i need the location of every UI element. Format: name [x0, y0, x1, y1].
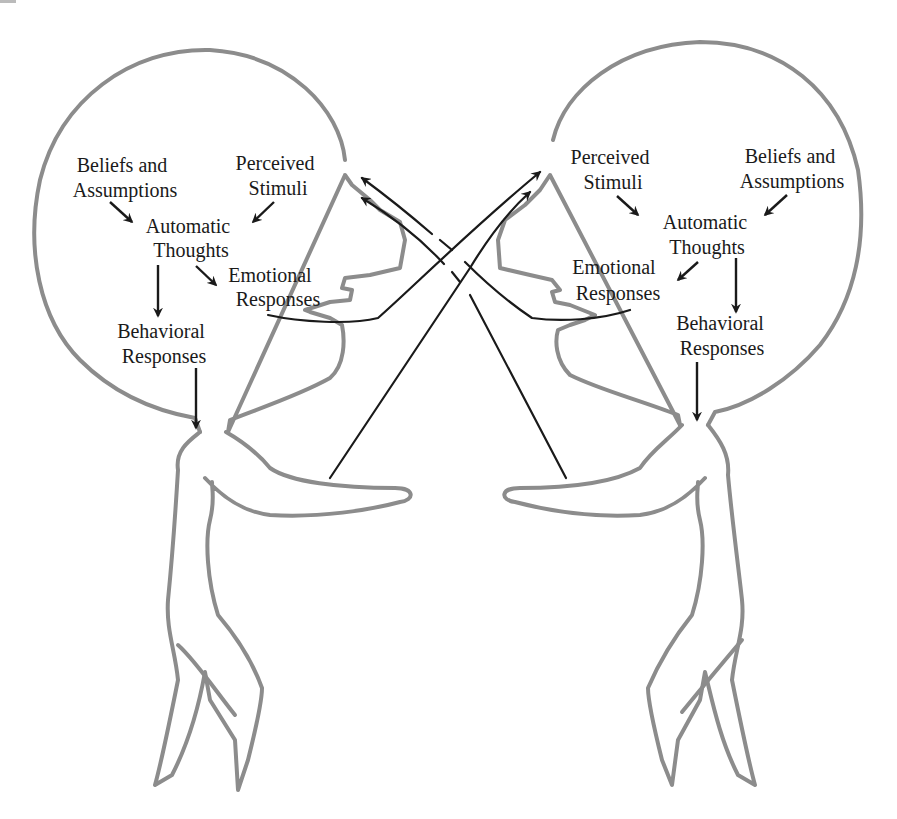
- right-arrow-beliefs-to-thoughts: [765, 195, 787, 215]
- left-leg-detail: [178, 645, 235, 715]
- right-arrow-thoughts-to-emotional: [678, 262, 698, 280]
- right-beliefs-label-1: Beliefs and: [745, 145, 836, 167]
- right-behavioral-label-2: Responses: [680, 337, 765, 360]
- right-cognitive-model: Perceived Stimuli Beliefs and Assumption…: [571, 145, 845, 420]
- right-arrow-stimuli-to-thoughts: [617, 196, 638, 215]
- right-thoughts-label-2: Thoughts: [669, 236, 745, 259]
- left-arrow-stimuli-to-thoughts: [253, 202, 274, 222]
- right-stimuli-label-1: Perceived: [571, 146, 650, 168]
- right-emotional-label-2: Responses: [576, 282, 661, 305]
- right-stimuli-label-2: Stimuli: [584, 171, 643, 193]
- right-body-outline: [504, 425, 755, 785]
- left-behavioral-label-1: Behavioral: [117, 320, 205, 342]
- left-beliefs-label-1: Beliefs and: [77, 154, 168, 176]
- right-thoughts-label-1: Automatic: [663, 211, 748, 233]
- right-head-outline: [498, 42, 861, 425]
- left-arrow-thoughts-to-emotional: [196, 266, 216, 285]
- left-emotional-label-2: Responses: [236, 288, 321, 311]
- left-arrow-beliefs-to-thoughts: [110, 202, 132, 222]
- right-emotional-label-1: Emotional: [572, 256, 656, 278]
- left-thoughts-label-1: Automatic: [146, 215, 231, 237]
- left-body-outline: [155, 432, 411, 790]
- left-stimuli-label-1: Perceived: [236, 152, 315, 174]
- left-stimuli-label-2: Stimuli: [249, 177, 308, 199]
- left-beliefs-label-2: Assumptions: [73, 179, 178, 202]
- right-beliefs-label-2: Assumptions: [740, 170, 845, 193]
- right-behavioral-label-1: Behavioral: [676, 312, 764, 334]
- left-behavioral-label-2: Responses: [122, 345, 207, 368]
- left-thoughts-label-2: Thoughts: [153, 239, 229, 262]
- cognitive-communication-diagram: Beliefs and Assumptions Perceived Stimul…: [0, 0, 897, 819]
- left-emotional-label-1: Emotional: [228, 264, 312, 286]
